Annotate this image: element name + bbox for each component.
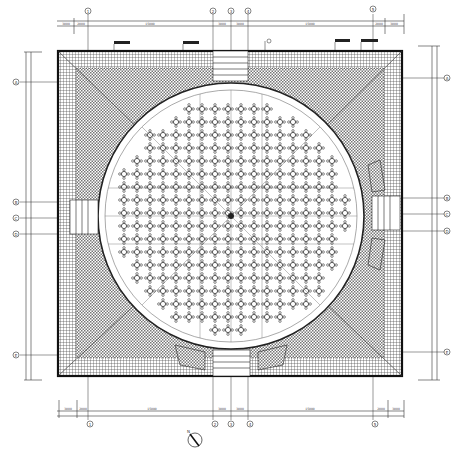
svg-text:5: 5: [374, 422, 377, 427]
svg-text:D: D: [445, 229, 448, 234]
svg-text:B: B: [15, 200, 18, 205]
svg-text:3: 3: [230, 422, 233, 427]
svg-text:2000: 2000: [375, 22, 383, 26]
svg-text:15000: 15000: [305, 407, 315, 411]
axis-bubbles-left: A B C D E: [13, 79, 19, 358]
svg-text:N: N: [187, 429, 190, 434]
dimension-chain-right: [418, 46, 440, 380]
svg-text:A: A: [15, 80, 18, 85]
svg-text:3000: 3000: [390, 22, 398, 26]
dimension-texts-top: 3000 2000 15000 3000 3000 15000 2000 300…: [62, 22, 398, 26]
svg-text:B: B: [446, 196, 449, 201]
svg-text:2: 2: [214, 422, 217, 427]
svg-text:1: 1: [87, 9, 90, 14]
dimension-chain-left: [24, 52, 42, 380]
svg-text:15000: 15000: [145, 22, 155, 26]
svg-text:3: 3: [230, 9, 233, 14]
svg-text:3000: 3000: [218, 22, 226, 26]
svg-text:2: 2: [212, 9, 215, 14]
svg-text:2000: 2000: [79, 407, 87, 411]
svg-text:3000: 3000: [62, 22, 70, 26]
svg-text:3000: 3000: [64, 407, 72, 411]
svg-text:3000: 3000: [392, 407, 400, 411]
svg-text:4: 4: [247, 9, 250, 14]
svg-text:3000: 3000: [218, 407, 226, 411]
svg-text:3000: 3000: [236, 407, 244, 411]
svg-text:5: 5: [372, 7, 375, 12]
axis-bubbles-bottom: 1 2 3 4 5: [87, 421, 378, 427]
svg-text:15000: 15000: [147, 407, 157, 411]
svg-text:1: 1: [89, 422, 92, 427]
circular-hall: [98, 83, 364, 349]
svg-text:4: 4: [249, 422, 252, 427]
dimension-texts-bottom: 3000 2000 15000 3000 3000 15000 2000 300…: [64, 407, 400, 411]
center-column: [228, 213, 234, 219]
axis-bubbles-right: A B C D E: [444, 75, 450, 355]
dimension-chain-bottom: [57, 400, 404, 418]
north-arrow-icon: N: [187, 429, 202, 447]
entrance-top: [213, 51, 248, 81]
svg-text:15000: 15000: [305, 22, 315, 26]
svg-text:A: A: [446, 76, 449, 81]
svg-text:2000: 2000: [77, 22, 85, 26]
svg-text:3000: 3000: [236, 22, 244, 26]
svg-text:D: D: [14, 232, 17, 237]
svg-text:2000: 2000: [377, 407, 385, 411]
axis-bubbles-top: 1 2 3 4 5: [85, 6, 376, 14]
svg-text:C: C: [446, 212, 449, 217]
svg-text:C: C: [15, 216, 18, 221]
floor-plan-drawing: 1 2 3 4 5 1 2 3 4 5 A B C D E A B: [0, 0, 462, 459]
dimension-chain-top: [57, 14, 404, 34]
entrance-left: [70, 200, 98, 234]
